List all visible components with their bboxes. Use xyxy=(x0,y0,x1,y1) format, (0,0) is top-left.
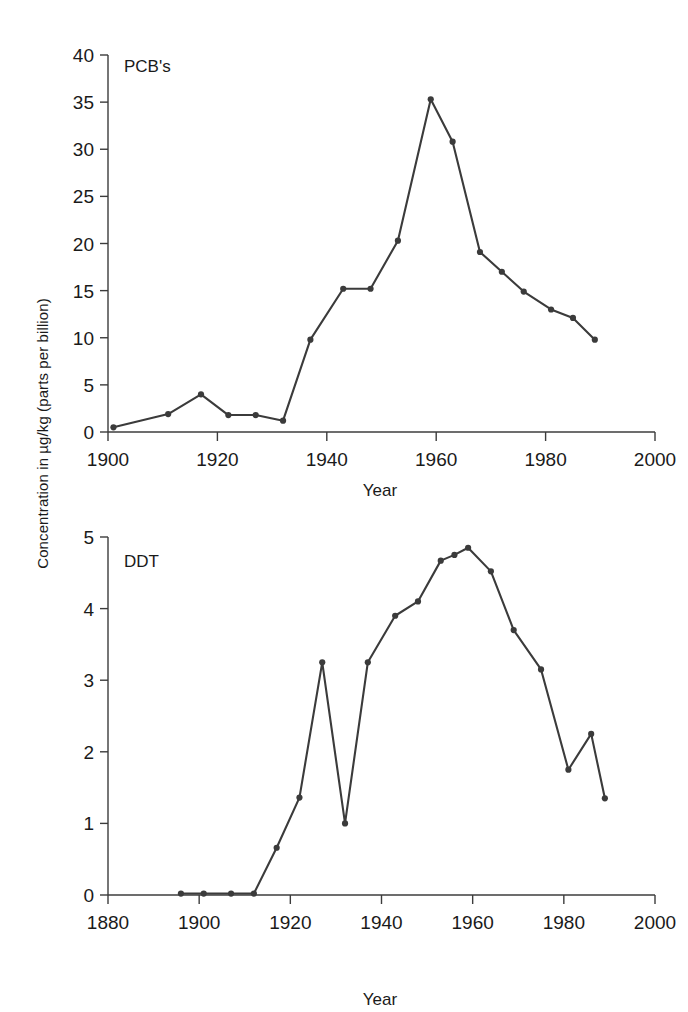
series-polyline xyxy=(113,99,594,427)
x-tick-label: 1920 xyxy=(196,449,238,470)
data-point xyxy=(592,337,598,343)
x-tick-label: 1960 xyxy=(452,912,494,933)
pcb-x-ticks: 190019201940196019802000 xyxy=(87,432,676,470)
x-tick-label: 1920 xyxy=(269,912,311,933)
chart-panel-ddt: 012345 1880190019201940196019802000 DDT … xyxy=(0,505,688,1012)
data-point xyxy=(538,666,544,672)
data-point xyxy=(451,552,457,558)
x-tick-label: 1980 xyxy=(543,912,585,933)
y-tick-label: 25 xyxy=(73,186,94,207)
data-point xyxy=(477,249,483,255)
y-tick-label: 2 xyxy=(83,742,94,763)
data-point xyxy=(165,411,171,417)
y-tick-label: 20 xyxy=(73,234,94,255)
y-tick-label: 35 xyxy=(73,92,94,113)
x-tick-label: 1960 xyxy=(415,449,457,470)
ddt-axes: 012345 1880190019201940196019802000 xyxy=(83,527,676,933)
x-tick-label: 1940 xyxy=(360,912,402,933)
data-point xyxy=(342,820,348,826)
y-tick-label: 5 xyxy=(83,527,94,548)
data-point xyxy=(340,286,346,292)
ddt-chart-svg: 012345 1880190019201940196019802000 DDT … xyxy=(0,505,688,1012)
data-point xyxy=(428,96,434,102)
x-tick-label: 1980 xyxy=(524,449,566,470)
data-point xyxy=(201,890,207,896)
data-point xyxy=(450,139,456,145)
x-tick-label: 2000 xyxy=(634,449,676,470)
y-tick-label: 4 xyxy=(83,599,94,620)
ddt-data-series xyxy=(178,545,608,897)
data-point xyxy=(392,613,398,619)
data-point xyxy=(438,558,444,564)
ddt-x-axis-title: Year xyxy=(363,990,398,1009)
data-point xyxy=(296,795,302,801)
y-tick-label: 15 xyxy=(73,281,94,302)
y-tick-label: 10 xyxy=(73,328,94,349)
ddt-panel-title: DDT xyxy=(124,552,159,571)
data-point xyxy=(178,890,184,896)
ddt-x-ticks: 1880190019201940196019802000 xyxy=(87,895,676,933)
data-point xyxy=(225,412,231,418)
pcb-panel-title: PCB's xyxy=(124,57,171,76)
data-point xyxy=(367,286,373,292)
y-tick-label: 5 xyxy=(83,375,94,396)
ddt-y-ticks: 012345 xyxy=(83,527,108,906)
x-tick-label: 2000 xyxy=(634,912,676,933)
pcb-data-series xyxy=(110,96,598,430)
data-point xyxy=(228,890,234,896)
data-point xyxy=(565,767,571,773)
data-point xyxy=(548,306,554,312)
data-point xyxy=(415,598,421,604)
data-point xyxy=(274,845,280,851)
data-point xyxy=(253,412,259,418)
x-tick-label: 1900 xyxy=(87,449,129,470)
data-point xyxy=(465,545,471,551)
pcb-y-ticks: 0510152025303540 xyxy=(73,45,108,443)
data-point xyxy=(588,731,594,737)
pcb-axes: 0510152025303540 19001920194019601980200… xyxy=(73,45,676,470)
data-point xyxy=(499,269,505,275)
data-point xyxy=(521,288,527,294)
x-tick-label: 1900 xyxy=(178,912,220,933)
data-point xyxy=(511,627,517,633)
y-tick-label: 1 xyxy=(83,813,94,834)
data-point xyxy=(110,424,116,430)
data-point xyxy=(488,568,494,574)
data-point xyxy=(570,315,576,321)
pcb-x-axis-title: Year xyxy=(363,481,398,500)
x-tick-label: 1940 xyxy=(306,449,348,470)
chart-panel-pcb: 0510152025303540 19001920194019601980200… xyxy=(0,0,688,500)
series-polyline xyxy=(181,548,605,894)
pcb-chart-svg: 0510152025303540 19001920194019601980200… xyxy=(0,0,688,500)
y-tick-label: 0 xyxy=(83,422,94,443)
figure-root: Concentration in µg/kg (parts per billio… xyxy=(0,0,688,1012)
x-tick-label: 1880 xyxy=(87,912,129,933)
data-point xyxy=(602,795,608,801)
data-point xyxy=(319,659,325,665)
y-tick-label: 0 xyxy=(83,885,94,906)
data-point xyxy=(251,890,257,896)
data-point xyxy=(198,391,204,397)
data-point xyxy=(395,238,401,244)
y-tick-label: 3 xyxy=(83,670,94,691)
data-point xyxy=(365,659,371,665)
y-tick-label: 40 xyxy=(73,45,94,66)
data-point xyxy=(307,337,313,343)
y-tick-label: 30 xyxy=(73,139,94,160)
data-point xyxy=(280,418,286,424)
